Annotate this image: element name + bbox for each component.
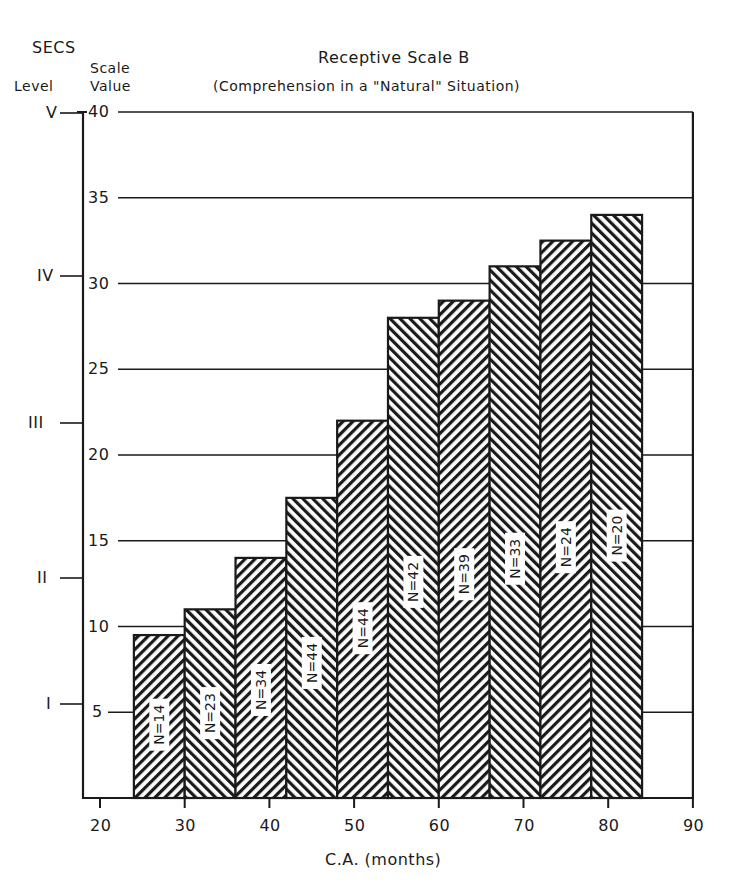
bar-n-label: N=33 xyxy=(505,533,525,585)
svg-text:N=23: N=23 xyxy=(202,693,218,733)
x-tick-label: 50 xyxy=(344,816,365,835)
svg-text:N=24: N=24 xyxy=(558,527,574,567)
level-tick-label: V xyxy=(46,103,57,122)
y-tick-label: 40 xyxy=(88,102,109,121)
bar-n-label: N=20 xyxy=(607,510,627,562)
svg-text:N=33: N=33 xyxy=(507,539,523,579)
y-tick-label: 30 xyxy=(88,274,109,293)
svg-text:N=39: N=39 xyxy=(456,554,472,594)
level-tick-label: III xyxy=(28,413,44,432)
x-tick-label: 80 xyxy=(598,816,619,835)
x-tick-label: 40 xyxy=(259,816,280,835)
bar-n-label: N=14 xyxy=(149,699,169,751)
bar xyxy=(591,215,642,798)
svg-text:N=14: N=14 xyxy=(151,705,167,745)
bar-n-label: N=23 xyxy=(200,687,220,739)
level-tick-label: IV xyxy=(37,266,54,285)
x-tick-label: 60 xyxy=(429,816,450,835)
svg-text:N=20: N=20 xyxy=(609,516,625,556)
level-tick-label: II xyxy=(37,568,47,587)
bar-n-label: N=34 xyxy=(251,664,271,716)
y-tick-label: 35 xyxy=(88,188,109,207)
y-tick-label: 5 xyxy=(92,702,103,721)
y-tick-label: 25 xyxy=(88,359,109,378)
x-tick-label: 90 xyxy=(683,816,704,835)
bar-n-label: N=44 xyxy=(302,637,322,689)
bar-n-label: N=39 xyxy=(454,548,474,600)
y-tick-label: 20 xyxy=(88,445,109,464)
x-tick-label: 70 xyxy=(514,816,535,835)
plot-area: N=14N=23N=34N=44N=44N=42N=39N=33N=24N=20 xyxy=(0,0,732,889)
y-tick-label: 15 xyxy=(88,531,109,550)
bar xyxy=(540,241,591,798)
svg-text:N=44: N=44 xyxy=(355,608,371,648)
y-tick-label: 10 xyxy=(88,617,109,636)
bar xyxy=(490,266,541,798)
level-tick-label: I xyxy=(46,694,51,713)
bar-n-label: N=24 xyxy=(556,521,576,573)
svg-text:N=44: N=44 xyxy=(304,643,320,683)
svg-text:N=34: N=34 xyxy=(253,670,269,710)
bar-n-label: N=42 xyxy=(403,556,423,608)
bar-n-label: N=44 xyxy=(353,602,373,654)
x-tick-label: 30 xyxy=(175,816,196,835)
x-tick-label: 20 xyxy=(90,816,111,835)
svg-text:N=42: N=42 xyxy=(405,562,421,602)
